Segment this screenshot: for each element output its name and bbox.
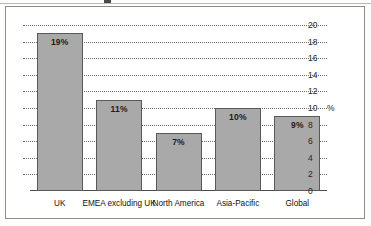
value-axis-tick [23, 75, 29, 76]
value-axis-tick-label: 6 [308, 136, 313, 146]
value-axis-tick-label: 10 [308, 103, 318, 113]
top-rule-divider [0, 3, 371, 4]
value-axis-tick-label: 4 [308, 153, 313, 163]
bar[interactable]: 9% [274, 116, 320, 191]
value-axis-tick [23, 91, 29, 92]
bar-value-label: 7% [157, 137, 201, 147]
value-axis-tick [23, 108, 29, 109]
bar-value-label: 19% [38, 37, 82, 47]
value-axis-tick [23, 58, 29, 59]
value-axis-tick-label: 20 [308, 20, 318, 30]
bar-value-label: 10% [216, 112, 260, 122]
bar[interactable]: 10% [215, 108, 261, 191]
gridline [30, 25, 327, 26]
bar-value-label: 11% [97, 104, 141, 114]
value-axis-tick [23, 141, 29, 142]
value-axis-tick [23, 25, 29, 26]
value-axis-tick [23, 42, 29, 43]
bar[interactable]: 19% [37, 33, 83, 191]
plot-area: 19%11%7%10%9% [30, 25, 327, 191]
value-axis-tick [23, 125, 29, 126]
category-label: Global [260, 199, 335, 208]
chart-frame: 19%11%7%10%9% 0246810%1214161820 UKEMEA … [5, 6, 365, 219]
value-axis-tick [23, 158, 29, 159]
value-axis-tick-label: 2 [308, 169, 313, 179]
value-axis-unit-label: % [327, 103, 335, 113]
value-axis-tick-label: 16 [308, 53, 318, 63]
bar[interactable]: 11% [96, 100, 142, 191]
value-axis-tick-label: 8 [308, 120, 313, 130]
value-axis-tick [23, 174, 29, 175]
bar[interactable]: 7% [156, 133, 202, 191]
value-axis-tick-label: 0 [308, 186, 313, 196]
value-axis-tick-label: 12 [308, 86, 318, 96]
value-axis-tick-label: 18 [308, 37, 318, 47]
chart-figure: 19%11%7%10%9% 0246810%1214161820 UKEMEA … [0, 0, 371, 226]
value-axis-tick-label: 14 [308, 70, 318, 80]
